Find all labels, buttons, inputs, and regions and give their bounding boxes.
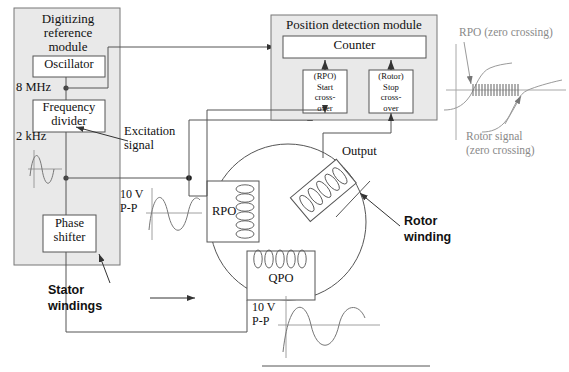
rpo-amplitude-label: 10 V P-P — [120, 187, 143, 216]
zc-rpo-arrow — [464, 42, 471, 84]
rotor-signal-zero-crossing-label: Rotor signal (zero crossing) — [466, 129, 535, 158]
stop-crossover-label[interactable]: (Rotor) Stop cross- over — [369, 71, 413, 114]
diagram-canvas: Digitizing reference module Oscillator F… — [0, 0, 569, 372]
qpo-stator-label: QPO — [247, 272, 315, 286]
rpo-zero-crossing-label: RPO (zero crossing) — [459, 26, 553, 38]
qpo-amplitude-label: 10 V P-P — [252, 300, 275, 329]
rpo-stator-label: RPO — [212, 205, 236, 219]
qpo-waveform-sine — [283, 307, 365, 352]
stator-windings-leader — [158, 282, 178, 300]
signal-label-2khz: 2 kHz — [16, 130, 46, 144]
zc-rpo-curve — [444, 63, 512, 110]
stator-windings-arrow-up — [118, 248, 138, 288]
wire-excitation-down-to-rpo — [189, 178, 207, 196]
rpo-waveform-sine — [149, 197, 200, 230]
rotor-winding-label: Rotor winding — [404, 214, 451, 245]
counter-label[interactable]: Counter — [283, 38, 426, 52]
phase-shifter-label[interactable]: Phase shifter — [43, 217, 96, 244]
excitation-signal-label: Excitation signal — [124, 125, 175, 152]
output-label: Output — [342, 145, 377, 159]
zc-rotor-arrow — [505, 96, 521, 124]
frequency-divider-label[interactable]: Frequency divider — [33, 101, 105, 128]
oscillator-label[interactable]: Oscillator — [33, 58, 105, 72]
start-crossover-label[interactable]: (RPO) Start cross- over — [303, 71, 347, 114]
signal-label-8mhz: 8 MHz — [16, 81, 51, 95]
diagram-vector-layer — [0, 0, 569, 372]
rotor-winding-group — [290, 159, 356, 221]
stator-windings-label: Stator windings — [48, 283, 102, 314]
position-detection-module-title: Position detection module — [271, 18, 437, 32]
rotor-winding-box — [290, 159, 356, 221]
digitizing-module-title: Digitizing reference module — [22, 12, 114, 54]
